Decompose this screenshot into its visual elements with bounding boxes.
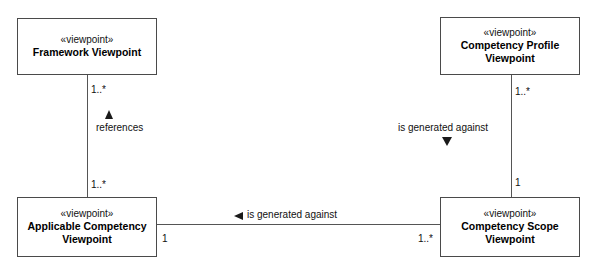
class-node-competency-scope-viewpoint[interactable]: «viewpoint» Competency Scope Viewpoint bbox=[440, 197, 580, 257]
class-node-applicable-competency-viewpoint[interactable]: «viewpoint» Applicable Competency Viewpo… bbox=[17, 197, 157, 257]
class-node-competency-profile-viewpoint[interactable]: «viewpoint» Competency Profile Viewpoint bbox=[440, 17, 580, 75]
edge-line-references bbox=[87, 75, 88, 197]
class-name-line-1: Competency Scope bbox=[461, 220, 558, 233]
stereotype-label: «viewpoint» bbox=[484, 27, 537, 39]
edge-line-profile-generated-against-scope bbox=[511, 75, 512, 197]
stereotype-label: «viewpoint» bbox=[61, 34, 114, 46]
multiplicity-applicable-scope-source: 1 bbox=[162, 233, 168, 244]
edge-label-profile-generated-against-scope: is generated against bbox=[398, 122, 488, 133]
multiplicity-applicable-scope-target: 1..* bbox=[418, 233, 433, 244]
edge-label-applicable-generated-against-scope: is generated against bbox=[247, 209, 337, 220]
class-name-line-1: Applicable Competency bbox=[27, 220, 146, 233]
class-node-framework-viewpoint[interactable]: «viewpoint» Framework Viewpoint bbox=[17, 18, 157, 75]
class-name-line-2: Viewpoint bbox=[485, 233, 534, 246]
class-name-line-2: Viewpoint bbox=[62, 233, 111, 246]
multiplicity-profile-scope-source: 1..* bbox=[515, 86, 530, 97]
class-name-line-1: Framework Viewpoint bbox=[33, 46, 141, 59]
edge-label-references: references bbox=[96, 122, 143, 133]
edge-line-applicable-generated-against-scope bbox=[157, 224, 440, 225]
multiplicity-references-target: 1..* bbox=[91, 179, 106, 190]
class-name-line-1: Competency Profile bbox=[461, 39, 560, 52]
class-name-line-2: Viewpoint bbox=[485, 52, 534, 65]
triangle-left-icon bbox=[234, 212, 243, 220]
triangle-down-icon bbox=[442, 137, 452, 146]
triangle-up-icon bbox=[105, 110, 113, 119]
multiplicity-profile-scope-target: 1 bbox=[515, 177, 521, 188]
stereotype-label: «viewpoint» bbox=[484, 208, 537, 220]
multiplicity-references-source: 1..* bbox=[91, 84, 106, 95]
uml-class-diagram: «viewpoint» Framework Viewpoint «viewpoi… bbox=[0, 0, 595, 272]
stereotype-label: «viewpoint» bbox=[61, 208, 114, 220]
